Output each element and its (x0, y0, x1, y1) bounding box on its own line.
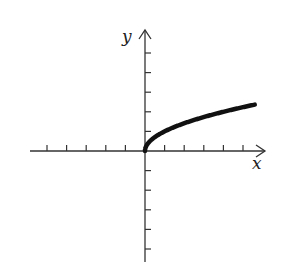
x-axis-label: x (252, 153, 262, 173)
sqrt-curve (145, 105, 255, 151)
function-graph: x y (0, 0, 289, 262)
y-axis-label: y (121, 26, 132, 46)
